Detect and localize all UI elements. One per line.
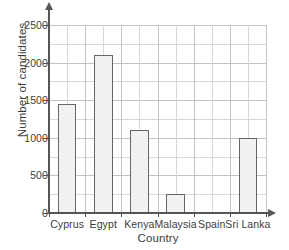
y-tick-label: 500 — [4, 169, 48, 181]
x-tick-label-cyprus: Cyprus — [50, 218, 84, 230]
x-axis-arrow-icon — [268, 209, 276, 217]
bar-cyprus — [58, 104, 77, 213]
y-axis-line — [48, 8, 50, 214]
x-axis-title: Country — [49, 232, 267, 244]
bar-kenya — [130, 130, 149, 213]
x-tick-label-kenya: Kenya — [124, 218, 154, 230]
x-tick-mark — [194, 213, 195, 217]
y-axis-ticks: 05001000150020002500 — [0, 0, 48, 250]
x-tick-mark — [230, 213, 231, 217]
y-tick-label: 2500 — [4, 19, 48, 31]
x-tick-label-sri-lanka: Sri Lanka — [225, 218, 270, 230]
bar-malaysia — [166, 194, 185, 213]
y-tick-label: 0 — [4, 207, 48, 219]
x-tick-mark — [85, 213, 86, 217]
x-tick-label-spain: Spain — [198, 218, 225, 230]
x-tick-mark — [266, 213, 267, 217]
x-tick-label-malaysia: Malaysia — [154, 218, 196, 230]
x-tick-mark — [121, 213, 122, 217]
y-tick-label: 1500 — [4, 94, 48, 106]
x-tick-label-egypt: Egypt — [90, 218, 117, 230]
y-tick-label: 1000 — [4, 132, 48, 144]
gridline-vertical — [266, 25, 267, 213]
bars-layer — [49, 25, 266, 213]
y-tick-label: 2000 — [4, 57, 48, 69]
bar-sri-lanka — [239, 138, 258, 213]
x-tick-mark — [49, 213, 50, 217]
bar-chart: Number of candidates 0500100015002000250… — [0, 0, 289, 250]
bar-egypt — [94, 55, 113, 213]
x-tick-mark — [158, 213, 159, 217]
